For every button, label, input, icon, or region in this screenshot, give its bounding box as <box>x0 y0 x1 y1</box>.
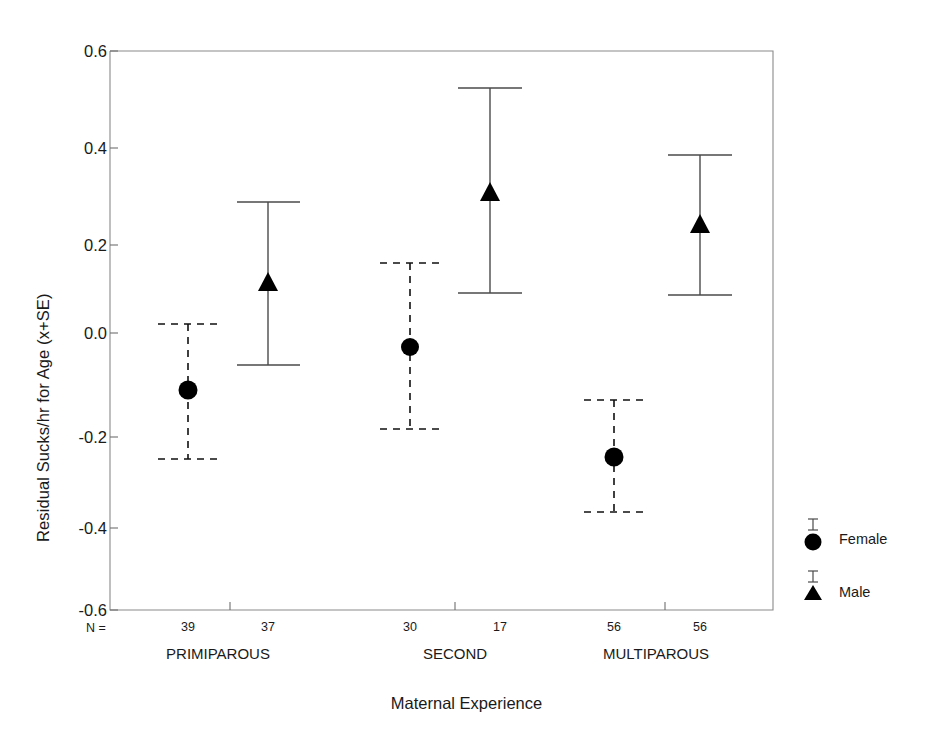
y-axis-ticks <box>110 51 118 610</box>
legend-male-errorbar-icon <box>808 571 818 582</box>
data-point-male-second <box>480 182 500 201</box>
chart-canvas <box>0 0 933 750</box>
plot-frame <box>110 51 773 610</box>
markers-female <box>179 338 624 467</box>
markers-male <box>258 182 710 291</box>
series-male <box>237 88 732 365</box>
data-point-male-primiparous <box>258 272 278 291</box>
data-point-female-primiparous <box>179 381 198 400</box>
chart-figure: Residual Sucks/hr for Age (x+SE) 0.6 0.4… <box>0 0 933 750</box>
data-point-female-second <box>401 338 419 356</box>
data-point-male-multiparous <box>690 214 710 233</box>
x-axis-group-ticks <box>230 602 665 610</box>
series-female <box>158 263 646 512</box>
legend-triangle-icon <box>804 585 822 600</box>
data-point-female-multiparous <box>605 448 624 467</box>
legend-female-errorbar-icon <box>808 519 818 530</box>
legend-circle-icon <box>805 534 822 551</box>
